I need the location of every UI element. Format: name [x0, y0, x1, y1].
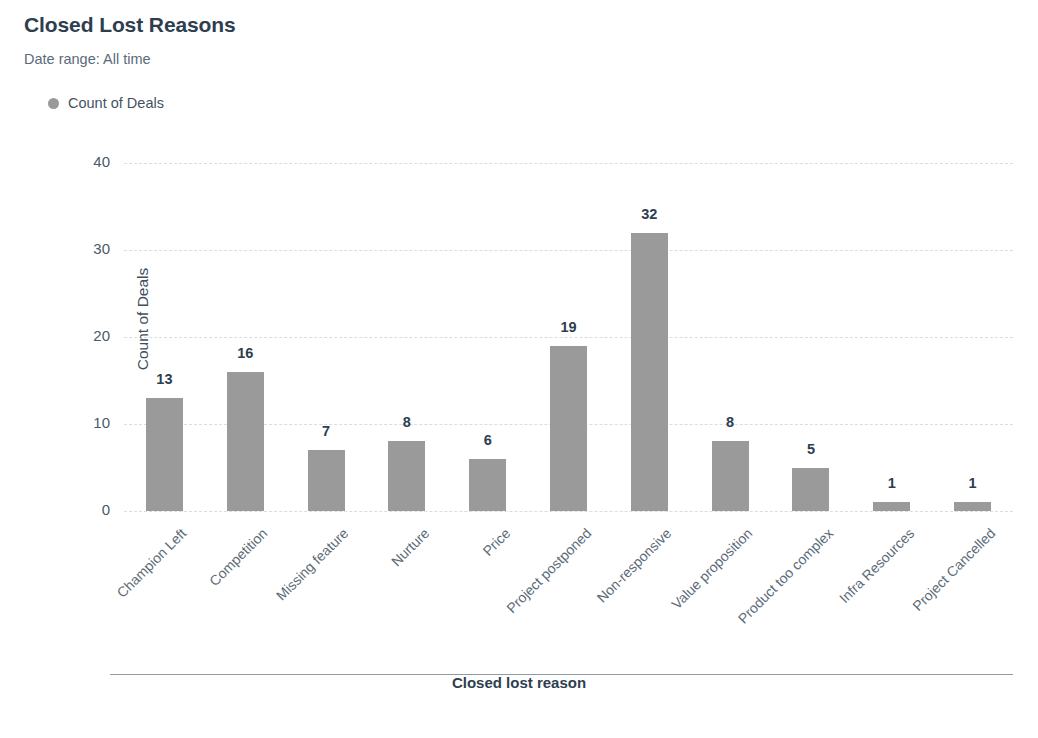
- chart-container: Closed Lost Reasons Date range: All time…: [0, 0, 1038, 738]
- bar-product-too-complex[interactable]: [792, 468, 829, 512]
- x-tick-label: Infra Resources: [764, 525, 917, 678]
- bar-project-postponed[interactable]: [550, 346, 587, 511]
- x-tick-label: Value proposition: [603, 525, 756, 678]
- y-tick-label: 30: [34, 240, 110, 257]
- bar-champion-left[interactable]: [146, 398, 183, 511]
- x-tick-label: Non-responsive: [522, 525, 675, 678]
- y-gridline: [124, 250, 1013, 251]
- bar-competition[interactable]: [227, 372, 264, 511]
- bar-price[interactable]: [469, 459, 506, 511]
- bar-project-cancelled[interactable]: [954, 502, 991, 511]
- bar-value-label: 19: [529, 319, 609, 335]
- bar-missing-feature[interactable]: [308, 450, 345, 511]
- bar-value-label: 7: [286, 423, 366, 439]
- bar-nurture[interactable]: [388, 441, 425, 511]
- bar-value-label: 16: [205, 345, 285, 361]
- x-tick-label: Champion Left: [37, 525, 190, 678]
- legend-entry-label: Count of Deals: [68, 95, 164, 111]
- bar-infra-resources[interactable]: [873, 502, 910, 511]
- date-range-label: Date range: All time: [24, 51, 151, 67]
- y-gridline: [124, 337, 1013, 338]
- y-gridline: [124, 511, 1013, 512]
- bar-value-label: 5: [771, 441, 851, 457]
- x-tick-label: Project Cancelled: [845, 525, 998, 678]
- x-tick-label: Project postponed: [441, 525, 594, 678]
- bar-value-label: 13: [124, 371, 204, 387]
- bar-value-proposition[interactable]: [712, 441, 749, 511]
- bar-value-label: 32: [609, 206, 689, 222]
- y-tick-label: 40: [34, 153, 110, 170]
- bar-non-responsive[interactable]: [631, 233, 668, 511]
- chart-legend: Count of Deals: [48, 93, 164, 113]
- bar-value-label: 8: [367, 414, 447, 430]
- x-tick-label: Price: [360, 525, 513, 678]
- x-tick-label: Nurture: [279, 525, 432, 678]
- x-tick-label: Missing feature: [199, 525, 352, 678]
- plot-area: 010203040Count of Deals13Champion Left16…: [124, 163, 1013, 511]
- bar-value-label: 8: [690, 414, 770, 430]
- y-tick-label: 10: [34, 414, 110, 431]
- bar-value-label: 6: [448, 432, 528, 448]
- legend-dot-icon: [48, 98, 59, 109]
- bar-value-label: 1: [933, 475, 1013, 491]
- y-gridline: [124, 163, 1013, 164]
- y-tick-label: 0: [34, 501, 110, 518]
- page-title: Closed Lost Reasons: [24, 13, 236, 37]
- x-tick-label: Product too complex: [684, 525, 837, 678]
- bar-value-label: 1: [852, 475, 932, 491]
- x-axis-title: Closed lost reason: [0, 674, 1038, 691]
- y-tick-label: 20: [34, 327, 110, 344]
- x-tick-label: Competition: [118, 525, 271, 678]
